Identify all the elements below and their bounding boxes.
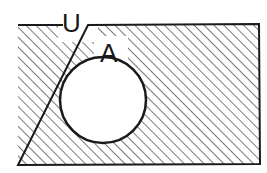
set-a-circle: [60, 57, 146, 143]
universe-label: U: [62, 8, 81, 38]
venn-diagram: U A: [0, 0, 267, 173]
set-a-label: A: [100, 38, 118, 68]
